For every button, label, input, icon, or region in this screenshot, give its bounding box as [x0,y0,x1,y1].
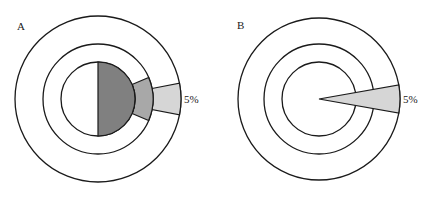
panel-b-percent-annotation: 5% [403,93,418,105]
panel-b: B 5% [237,18,418,180]
panel-a: A 5% [15,16,199,182]
panel-b-label: B [237,19,244,31]
panel-a-outer-wedge [152,83,181,115]
panel-b-wedge [319,85,400,113]
concentric-circle-diagram: A 5% B 5% [0,0,427,197]
panel-a-label: A [17,20,25,32]
panel-a-percent-annotation: 5% [184,93,199,105]
panel-a-inner-half-shaded [98,62,135,136]
